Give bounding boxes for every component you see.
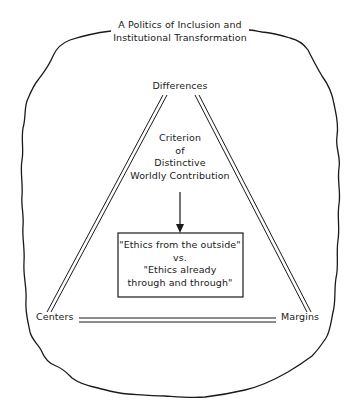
- diagram-title: A Politics of Inclusion and Institutiona…: [100, 19, 260, 44]
- ethics-box-text: "Ethics from the outside" vs. "Ethics al…: [117, 239, 243, 289]
- box-line-2: vs.: [117, 252, 243, 265]
- criterion-line-1: Criterion: [120, 132, 240, 145]
- vertex-label-centers: Centers: [36, 311, 76, 324]
- criterion-line-3: Distinctive: [120, 157, 240, 170]
- title-line-2: Institutional Transformation: [100, 32, 260, 45]
- box-line-3: "Ethics already: [117, 264, 243, 277]
- criterion-line-4: Worldly Contribution: [120, 170, 240, 183]
- diagram-canvas: [0, 0, 356, 417]
- criterion-label: Criterion of Distinctive Worldly Contrib…: [120, 132, 240, 182]
- triangle-base-edge: [79, 318, 276, 322]
- arrow-down-icon: [176, 192, 184, 233]
- vertex-label-margins: Margins: [281, 311, 331, 324]
- criterion-line-2: of: [120, 145, 240, 158]
- vertex-label-differences: Differences: [140, 80, 220, 93]
- box-line-1: "Ethics from the outside": [117, 239, 243, 252]
- title-line-1: A Politics of Inclusion and: [100, 19, 260, 32]
- box-line-4: through and through": [117, 277, 243, 290]
